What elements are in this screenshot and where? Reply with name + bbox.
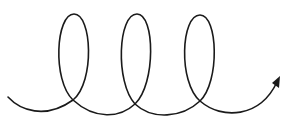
arrow-icon xyxy=(272,76,280,88)
coil-path xyxy=(8,14,277,115)
coil-diagram xyxy=(0,0,295,126)
